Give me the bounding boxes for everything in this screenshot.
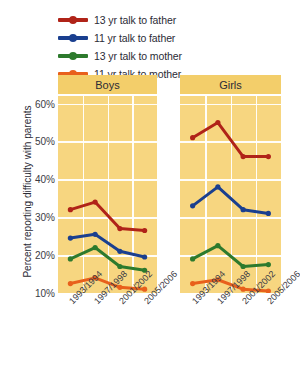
data-point — [190, 135, 195, 140]
y-tick-label: 30% — [11, 212, 55, 223]
y-tick-label: 20% — [11, 250, 55, 261]
data-point — [117, 226, 122, 231]
data-point — [68, 256, 73, 261]
legend-line-marker-icon — [58, 30, 88, 46]
chart-legend: 13 yr talk to father 11 yr talk to fathe… — [58, 12, 182, 84]
data-point — [68, 235, 73, 240]
series-line-0 — [70, 202, 144, 230]
series-layer — [58, 96, 157, 293]
y-tick-label: 40% — [11, 174, 55, 185]
data-point — [190, 256, 195, 261]
data-point — [190, 203, 195, 208]
data-point — [68, 207, 73, 212]
legend-item-0: 13 yr talk to father — [58, 12, 182, 28]
data-point — [142, 228, 147, 233]
legend-line-marker-icon — [58, 12, 88, 28]
data-point — [266, 154, 271, 159]
series-line-0 — [193, 123, 269, 157]
data-point — [266, 262, 271, 267]
plot-area-boys — [58, 96, 157, 293]
data-point — [117, 249, 122, 254]
data-point — [241, 154, 246, 159]
plot-area-girls — [180, 96, 281, 293]
panel-boys: Boys — [58, 75, 157, 293]
legend-line-marker-icon — [58, 48, 88, 64]
y-tick-label: 50% — [11, 136, 55, 147]
data-point — [241, 207, 246, 212]
data-point — [215, 184, 220, 189]
data-point — [142, 254, 147, 259]
legend-item-2: 13 yr talk to mother — [58, 48, 182, 64]
panel-title: Boys — [58, 75, 157, 94]
data-point — [93, 232, 98, 237]
panel-title: Girls — [180, 75, 281, 94]
x-axis-labels: 1993/19941997/19982001/20022005/20061993… — [0, 275, 300, 373]
data-point — [93, 199, 98, 204]
series-line-1 — [193, 187, 269, 214]
series-line-2 — [193, 246, 269, 267]
chart-page: 13 yr talk to father 11 yr talk to fathe… — [0, 0, 300, 373]
series-layer — [180, 96, 281, 293]
legend-item-1: 11 yr talk to father — [58, 30, 182, 46]
data-point — [215, 120, 220, 125]
series-line-2 — [70, 248, 144, 271]
y-tick-label: 60% — [11, 98, 55, 109]
data-point — [215, 243, 220, 248]
panel-girls: Girls — [180, 75, 281, 293]
legend-label: 13 yr talk to father — [94, 14, 176, 26]
data-point — [266, 211, 271, 216]
data-point — [93, 245, 98, 250]
legend-label: 13 yr talk to mother — [94, 50, 182, 62]
legend-label: 11 yr talk to father — [94, 32, 175, 44]
